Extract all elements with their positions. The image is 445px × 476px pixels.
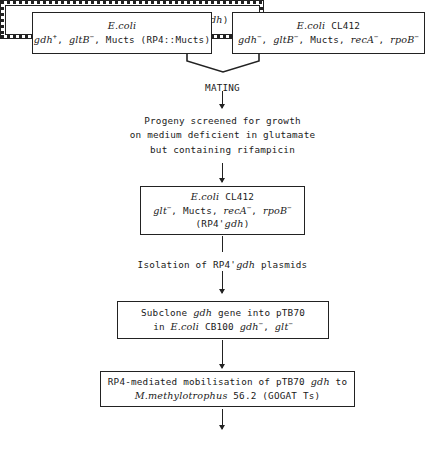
gene-gltb: gltB [273,34,294,45]
species-name: M.methylotrophus [135,390,228,401]
parent-right-species-line: E.coli CL412 [297,19,360,33]
mobilisation-box: RP4-mediated mobilisation of pTB70 gdh t… [100,371,355,407]
gene-reca: recA [224,205,247,216]
isolation-text-prefix: Isolation of RP4' [138,259,237,270]
gene-rpob: rpoB [263,205,287,216]
strain-designation: CL412 [325,20,360,31]
mobilisation-line-1: RP4-mediated mobilisation of pTB70 gdh t… [108,375,347,389]
gene-gdh: gdh [311,376,330,387]
gene-reca: recA [351,34,374,45]
gene-gdh-host: gdh [240,321,259,332]
species-name: E.coli [108,20,137,31]
parent-strain-box-right: E.coli CL412 gdh−, gltB−, Mucts, recA−, … [232,12,425,54]
connector-recombinant-to-isolation [222,236,224,252]
gene-glt-host: glt [275,321,289,332]
species-name: E.coli [297,20,326,31]
gene-rpob: rpoB [390,34,414,45]
plasmid-suffix: ) [244,218,250,229]
mobilisation-line-2: M.methylotrophus 56.2 (GOGAT Ts) [135,389,321,403]
recipient-strain: 56.2 (GOGAT Ts) [228,390,321,401]
separator-2: , Mucts, [299,34,351,45]
gene-rpob-superscript: − [414,33,418,41]
screening-text-block: Progeny screened for growth on medium de… [0,114,445,157]
gene-rpob-superscript: − [287,203,291,211]
recombinant-species-line: E.coli CL412 [191,190,254,204]
species-name: E.coli [171,321,200,332]
separator-1: , [262,34,274,45]
parent-strain-box-left: E.coli gdh+, gltB−, Mucts (RP4::Mucts) [32,12,212,54]
separator-1: , Mucts, [171,205,223,216]
subclone-line-2: in E.coli CB100 gdh−, glt− [153,320,293,334]
gene-gltb: gltB [69,34,90,45]
mobilisation-prefix: RP4-mediated mobilisation of pTB70 [108,376,311,387]
screening-text-line-2: on medium deficient in glutamate [0,128,445,142]
gene-glt: glt [153,205,167,216]
separator-3: , [379,34,391,45]
subclone-box: Subclone gdh gene into pTB70 in E.coli C… [117,301,329,339]
arrow-isolation-to-subclone [222,271,224,293]
arrow-screening-to-recombinant [222,163,224,182]
species-name: E.coli [191,191,220,202]
gene-gdh: gdh [34,34,53,45]
screening-text-line-1: Progeny screened for growth [0,114,445,128]
subclone-prefix: Subclone [141,307,193,318]
parent-left-genotype-line: gdh+, gltB−, Mucts (RP4::Mucts) [34,33,210,47]
host-strain: CB100 [199,321,240,332]
flowchart-diagram: E.coli gdh+, gltB−, Mucts (RP4::Mucts) E… [0,0,445,476]
gene-gdh: gdh [193,307,212,318]
isolation-text-suffix: plasmids [255,259,307,270]
gene-gdh: gdh [225,218,244,229]
parent-left-species-line: E.coli [108,19,137,33]
mobilisation-suffix: to [330,376,347,387]
arrow-mobilisation-to-final [222,409,224,429]
subclone-line-1: Subclone gdh gene into pTB70 [141,306,305,320]
strain-designation: CL412 [219,191,254,202]
recombinant-strain-box: E.coli CL412 glt−, Mucts, recA−, rpoB− (… [140,186,305,235]
final-closing-paren: ) [223,14,229,25]
gene-gdh: gdh [236,259,255,270]
arrow-subclone-to-mobilisation [222,340,224,368]
mating-y-connector-icon [186,53,260,73]
screening-text-line-3: but containing rifampicin [0,143,445,157]
plasmid-prefix: (RP4' [196,218,225,229]
host-prefix: in [153,321,170,332]
arrow-mating-to-screening [222,91,224,108]
recombinant-plasmid-line: (RP4'gdh) [196,217,250,231]
recombinant-genotype-line: glt−, Mucts, recA−, rpoB− [153,204,291,218]
separator-2: , [251,205,263,216]
parent-right-genotype-line: gdh−, gltB−, Mucts, recA−, rpoB− [238,33,419,47]
isolation-text-line: Isolation of RP4'gdh plasmids [138,259,308,270]
genotype-separator-1: , [57,34,69,45]
gene-gdh: gdh [238,34,257,45]
subclone-suffix: gene into pTB70 [212,307,305,318]
genotype-remainder: , Mucts (RP4::Mucts) [94,34,210,45]
host-separator: , [263,321,275,332]
gene-glt-host-superscript: − [288,320,292,328]
